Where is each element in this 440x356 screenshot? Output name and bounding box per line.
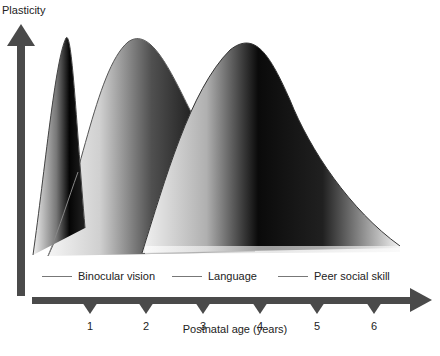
legend-item-binocular-vision: Binocular vision: [42, 270, 155, 282]
legend-item-peer-social-skill: Peer social skill: [278, 270, 390, 282]
legend-label: Language: [208, 270, 257, 282]
y-axis: [7, 24, 35, 296]
legend-label: Binocular vision: [78, 270, 155, 282]
legend-line-icon: [172, 276, 202, 277]
x-axis: [32, 288, 432, 314]
x-axis-label: Postnatal age (years): [0, 323, 440, 335]
plasticity-chart: [0, 0, 440, 356]
legend-label: Peer social skill: [314, 270, 390, 282]
legend-line-icon: [42, 276, 72, 277]
peer-social-skill-curve: [142, 43, 400, 254]
binocular-vision-curve: [33, 38, 85, 255]
legend-line-icon: [278, 276, 308, 277]
legend-item-language: Language: [172, 270, 257, 282]
